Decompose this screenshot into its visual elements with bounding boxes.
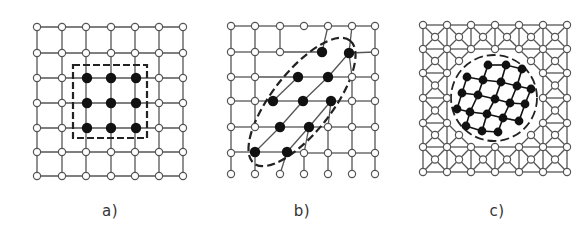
open-atom-node (82, 23, 89, 30)
open-atom-node (324, 170, 331, 177)
open-atom-node (503, 33, 510, 40)
open-atom-node (443, 94, 450, 101)
open-atom-node (251, 22, 258, 29)
open-atom-node (539, 94, 546, 101)
open-atom-node (33, 74, 40, 81)
open-atom-node (443, 69, 450, 76)
open-atom-node (227, 22, 234, 29)
filled-atom-node (513, 82, 522, 91)
filled-atom-node (250, 147, 260, 157)
open-atom-node (515, 21, 522, 28)
open-atom-node (227, 73, 234, 80)
open-atom-node (179, 99, 186, 106)
open-atom-node (443, 168, 450, 175)
open-atom-node (371, 170, 378, 177)
filled-atom-node (317, 47, 327, 57)
filled-atom-node (82, 123, 92, 133)
open-atom-node (491, 45, 498, 52)
filled-atom-node (131, 123, 141, 133)
filled-atom-node (293, 72, 303, 82)
open-atom-node (443, 119, 450, 126)
open-atom-node (155, 172, 162, 179)
filled-atom-node (106, 123, 116, 133)
open-atom-node (539, 119, 546, 126)
open-atom-node (179, 23, 186, 30)
open-atom-node (155, 99, 162, 106)
filled-atom-node (298, 96, 308, 106)
open-atom-node (58, 124, 65, 131)
filled-atom-node (515, 117, 524, 126)
open-atom-node (324, 22, 331, 29)
open-atom-node (371, 97, 378, 104)
open-atom-node (419, 168, 426, 175)
open-atom-node (348, 73, 355, 80)
open-atom-node (227, 170, 234, 177)
filled-atom-node (82, 98, 92, 108)
open-atom-node (563, 143, 570, 150)
open-atom-node (515, 143, 522, 150)
open-atom-node (251, 123, 258, 130)
filled-atom-node (131, 73, 141, 83)
panel-a-square-cluster (33, 23, 186, 179)
filled-atom-node (323, 72, 333, 82)
open-atom-node (443, 143, 450, 150)
filled-atom-node (483, 110, 492, 119)
open-atom-node (371, 73, 378, 80)
filled-atom-node (466, 108, 475, 117)
open-atom-node (551, 131, 558, 138)
open-atom-node (563, 45, 570, 52)
open-atom-node (551, 82, 558, 89)
open-atom-node (58, 23, 65, 30)
open-atom-node (348, 170, 355, 177)
filled-atom-node (106, 98, 116, 108)
filled-atom-node (484, 61, 493, 70)
panel-c-label: c) (489, 202, 504, 220)
open-atom-node (33, 172, 40, 179)
open-atom-node (551, 156, 558, 163)
open-atom-node (155, 124, 162, 131)
open-atom-node (324, 123, 331, 130)
open-atom-node (563, 168, 570, 175)
open-atom-node (276, 22, 283, 29)
open-atom-node (155, 23, 162, 30)
open-atom-node (467, 168, 474, 175)
open-atom-node (179, 49, 186, 56)
open-atom-node (503, 156, 510, 163)
open-atom-node (443, 45, 450, 52)
open-atom-node (551, 107, 558, 114)
open-atom-node (455, 131, 462, 138)
open-atom-node (82, 148, 89, 155)
open-atom-node (179, 172, 186, 179)
open-atom-node (371, 123, 378, 130)
filled-atom-node (463, 73, 472, 82)
filled-atom-node (268, 96, 278, 106)
filled-atom-node (497, 78, 506, 87)
open-atom-node (539, 45, 546, 52)
open-atom-node (431, 131, 438, 138)
open-atom-node (58, 148, 65, 155)
open-atom-node (179, 148, 186, 155)
open-atom-node (455, 33, 462, 40)
open-atom-node (431, 57, 438, 64)
filled-atom-node (344, 48, 354, 58)
filled-atom-node (518, 65, 527, 74)
open-atom-node (371, 149, 378, 156)
cluster-bond (280, 101, 303, 127)
filled-atom-node (479, 76, 488, 85)
open-atom-node (491, 143, 498, 150)
open-atom-node (131, 148, 138, 155)
open-atom-node (324, 149, 331, 156)
open-atom-node (131, 172, 138, 179)
open-atom-node (33, 23, 40, 30)
filled-atom-node (304, 122, 314, 132)
open-atom-node (155, 148, 162, 155)
filled-atom-node (478, 127, 487, 136)
panel-c-circular-cluster (419, 21, 570, 175)
open-atom-node (300, 22, 307, 29)
filled-atom-node (326, 96, 336, 106)
filled-atom-node (131, 98, 141, 108)
open-atom-node (58, 74, 65, 81)
open-atom-node (539, 69, 546, 76)
filled-atom-node (453, 105, 462, 114)
open-atom-node (276, 170, 283, 177)
